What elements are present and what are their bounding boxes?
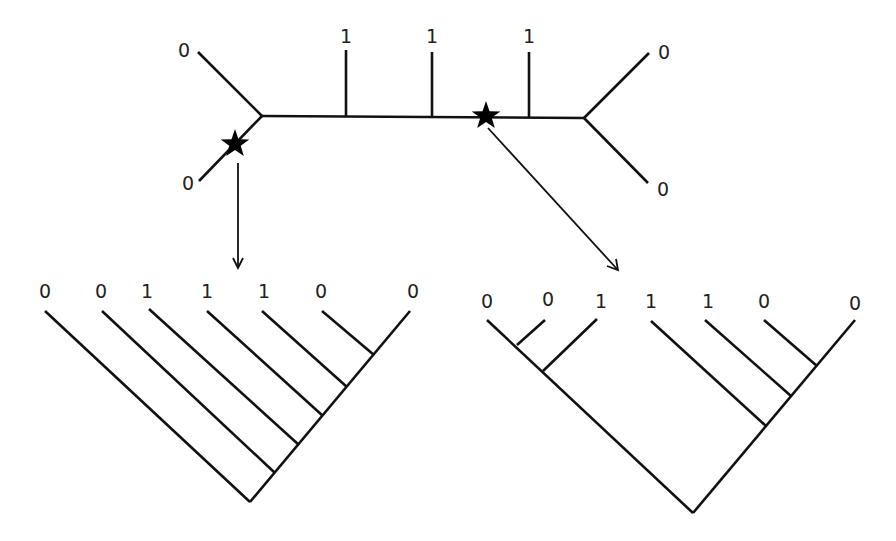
leaf-label: 0 xyxy=(849,292,861,314)
rooted-tree-left: 0 0 1 1 1 0 0 xyxy=(39,280,419,502)
leaf-branch-2 xyxy=(102,311,275,473)
leaf-branch-2 xyxy=(517,320,545,345)
leaf-label-mid-3: 1 xyxy=(523,25,535,47)
leaf-branch-6 xyxy=(322,311,374,355)
rooted-tree-right: 0 0 1 1 1 0 0 xyxy=(481,288,861,513)
unrooted-tree: 0 0 1 1 1 0 0 xyxy=(178,25,670,200)
leaf-label: 1 xyxy=(201,280,213,302)
left-spine xyxy=(487,320,693,513)
leaf-label: 1 xyxy=(258,280,270,302)
branch-bottom-right xyxy=(584,118,648,183)
internal-branch xyxy=(262,116,584,118)
leaf-branch-4 xyxy=(651,321,766,426)
leaf-label: 0 xyxy=(315,280,327,302)
leaf-label-top-left: 0 xyxy=(178,39,190,61)
arrows xyxy=(233,128,618,270)
leaf-label-bottom-left: 0 xyxy=(182,172,194,194)
leaf-label: 0 xyxy=(407,280,419,302)
leaf-label-top-right: 0 xyxy=(658,41,670,63)
leaf-label: 1 xyxy=(141,280,153,302)
leaf-label: 0 xyxy=(95,280,107,302)
leaf-label: 0 xyxy=(758,290,770,312)
leaf-label: 0 xyxy=(481,290,493,312)
star-icon-right-root xyxy=(472,101,501,128)
branch-top-left xyxy=(198,52,262,116)
leaf-branch-1 xyxy=(45,311,250,502)
leaf-label: 1 xyxy=(645,290,657,312)
leaf-label: 1 xyxy=(595,290,607,312)
leaf-label-mid-2: 1 xyxy=(426,25,438,47)
phylogeny-diagram: 0 0 1 1 1 0 0 0 0 1 1 1 0 0 xyxy=(0,0,896,541)
right-spine xyxy=(693,320,855,513)
leaf-label: 0 xyxy=(39,280,51,302)
arrow-right xyxy=(488,128,617,269)
leaf-branch-6 xyxy=(764,320,817,366)
leaf-branch-4 xyxy=(207,311,323,416)
leaf-label: 1 xyxy=(702,290,714,312)
leaf-label: 0 xyxy=(542,288,554,310)
branch-top-right xyxy=(584,53,649,118)
leaf-branch-3 xyxy=(543,319,597,371)
leaf-label-bottom-right: 0 xyxy=(657,178,669,200)
leaf-label-mid-1: 1 xyxy=(340,25,352,47)
